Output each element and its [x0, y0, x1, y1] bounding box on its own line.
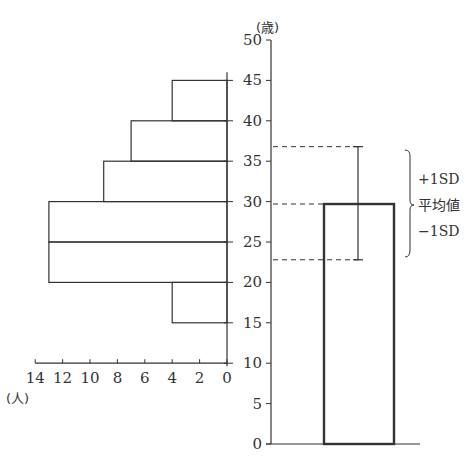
mean-label: 平均値: [418, 197, 460, 213]
chart: 14121086420 05101520253035404550 (歳) (人)…: [0, 0, 475, 470]
sd-brace: [405, 150, 414, 257]
age-tick-label: 45: [243, 71, 262, 89]
count-tick-label: 14: [26, 369, 45, 387]
count-tick-label: 2: [195, 369, 205, 387]
age-tick-label: 0: [252, 435, 262, 453]
mean-bar-rect: [324, 204, 394, 444]
histogram-bar: [104, 161, 227, 201]
count-tick-label: 10: [80, 369, 99, 387]
plus-sd-label: +1SD: [418, 171, 459, 187]
age-tick-label: 25: [243, 233, 262, 251]
age-tick-label: 5: [252, 395, 262, 413]
minus-sd-label: −1SD: [418, 223, 459, 239]
age-tick-label: 40: [243, 112, 262, 130]
histogram-bar: [49, 242, 227, 282]
histogram-x-axis: 14121086420: [26, 359, 232, 387]
histogram-bar: [131, 121, 227, 161]
count-tick-label: 6: [140, 369, 150, 387]
age-tick-label: 20: [243, 273, 262, 291]
age-tick-label: 30: [243, 193, 262, 211]
count-tick-label: 8: [113, 369, 123, 387]
x-unit-label: (人): [6, 391, 29, 406]
histogram-bar: [49, 202, 227, 242]
age-tick-label: 35: [243, 152, 262, 170]
histogram: [49, 72, 233, 366]
count-tick-label: 4: [167, 369, 177, 387]
histogram-bar: [172, 282, 227, 322]
age-tick-label: 15: [243, 314, 262, 332]
count-tick-label: 12: [53, 369, 72, 387]
y-unit-label: (歳): [256, 20, 279, 35]
age-tick-label: 10: [243, 354, 262, 372]
mean-bar-with-sd: [273, 147, 394, 444]
count-tick-label: 0: [222, 369, 232, 387]
histogram-bar: [172, 80, 227, 120]
